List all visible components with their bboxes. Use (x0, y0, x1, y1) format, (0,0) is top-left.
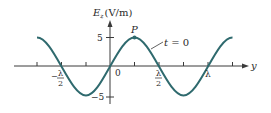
svg-text:λ: λ (58, 69, 63, 78)
curve-label: t = 0 (164, 37, 189, 48)
y-axis-arrow-icon (108, 20, 113, 27)
x-tick-label-zero: 0 (115, 68, 121, 78)
x-tick-label-lambda: λ (205, 69, 211, 79)
x-tick-label-half-lambda: λ 2 (155, 69, 162, 88)
y-axis-label: Ez(V/m) (92, 7, 132, 19)
svg-text:2: 2 (156, 79, 161, 88)
curve-label-leader (151, 42, 163, 49)
point-p-marker (133, 36, 137, 40)
point-p-label: P (130, 24, 138, 35)
y-tick-label-neg5: −5 (91, 92, 105, 102)
svg-text:2: 2 (58, 79, 63, 88)
svg-text:−: − (51, 72, 58, 81)
x-axis-arrow-icon (242, 64, 249, 69)
x-axis-label: y (250, 60, 257, 71)
svg-text:λ: λ (156, 69, 161, 78)
y-tick-label-5: 5 (97, 33, 103, 43)
x-ticks (37, 62, 233, 66)
wave-diagram: P t = 0 Ez(V/m) 5 −5 0 λ λ 2 − λ 2 y (0, 0, 271, 113)
x-tick-label-neg-half-lambda: − λ 2 (51, 69, 64, 88)
